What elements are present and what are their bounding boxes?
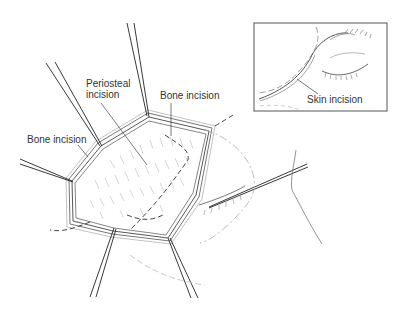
face-contour bbox=[130, 130, 322, 285]
surgical-diagram bbox=[0, 0, 404, 315]
periosteal-label-line2: incision bbox=[86, 89, 130, 100]
bone-incision-top-label: Bone incision bbox=[160, 90, 219, 101]
periosteal-label-line1: Periosteal bbox=[86, 78, 130, 89]
craniotomy-outline bbox=[66, 110, 215, 244]
skin-incision-label: Skin incision bbox=[307, 94, 363, 105]
periosteal-incision-line bbox=[50, 115, 233, 231]
retraction-sutures bbox=[20, 23, 308, 298]
bone-incision-left-label: Bone incision bbox=[27, 134, 86, 145]
periosteal-incision-label: Periosteal incision bbox=[86, 78, 130, 100]
bone-texture bbox=[90, 137, 193, 219]
